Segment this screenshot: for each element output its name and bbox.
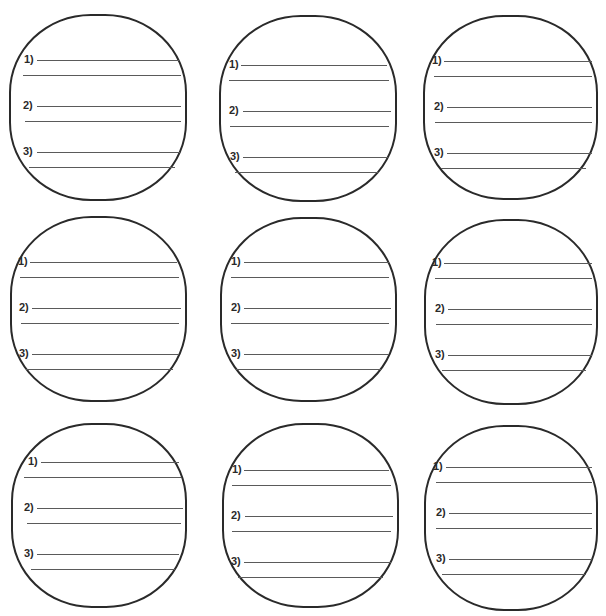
writing-line[interactable]: [447, 153, 592, 154]
writing-line[interactable]: [244, 562, 391, 563]
writing-line[interactable]: [37, 60, 179, 61]
writing-line[interactable]: [30, 262, 177, 263]
writing-line[interactable]: [435, 122, 592, 123]
item-number-3: 3): [23, 146, 33, 157]
writing-line[interactable]: [434, 76, 592, 77]
writing-line[interactable]: [24, 477, 181, 478]
item-number-1: 1): [433, 461, 443, 472]
writing-line[interactable]: [32, 308, 181, 309]
writing-line[interactable]: [444, 61, 592, 62]
item-number-1: 1): [229, 59, 239, 70]
writing-line[interactable]: [446, 467, 592, 468]
item-number-1: 1): [432, 55, 442, 66]
writing-line[interactable]: [243, 157, 389, 158]
item-number-2: 2): [434, 101, 444, 112]
writing-line[interactable]: [442, 370, 586, 371]
writing-line[interactable]: [243, 111, 391, 112]
answer-card-1: 1) 2) 3): [9, 14, 187, 201]
item-number-2: 2): [231, 302, 241, 313]
item-number-3: 3): [19, 348, 29, 359]
answer-card-9: 1) 2) 3): [424, 425, 598, 611]
item-number-2: 2): [436, 507, 446, 518]
item-number-2: 2): [229, 105, 239, 116]
item-number-1: 1): [18, 256, 28, 267]
writing-line[interactable]: [230, 126, 389, 127]
writing-line[interactable]: [27, 523, 181, 524]
writing-line[interactable]: [37, 554, 179, 555]
writing-line[interactable]: [229, 80, 389, 81]
writing-line[interactable]: [29, 167, 175, 168]
item-number-3: 3): [434, 147, 444, 158]
writing-line[interactable]: [238, 577, 383, 578]
writing-line[interactable]: [232, 485, 391, 486]
writing-line[interactable]: [245, 516, 393, 517]
writing-line[interactable]: [231, 323, 389, 324]
writing-line[interactable]: [232, 531, 391, 532]
item-number-1: 1): [24, 54, 34, 65]
writing-line[interactable]: [20, 277, 179, 278]
writing-line[interactable]: [436, 324, 592, 325]
item-number-2: 2): [19, 302, 29, 313]
item-number-3: 3): [231, 348, 241, 359]
writing-line[interactable]: [25, 121, 181, 122]
writing-line[interactable]: [448, 309, 592, 310]
item-number-1: 1): [28, 456, 38, 467]
item-number-3: 3): [436, 553, 446, 564]
writing-line[interactable]: [436, 528, 592, 529]
writing-line[interactable]: [441, 168, 586, 169]
writing-line[interactable]: [236, 369, 381, 370]
answer-card-6: 1) 2) 3): [424, 219, 598, 405]
writing-line[interactable]: [241, 65, 387, 66]
item-number-3: 3): [435, 349, 445, 360]
writing-line[interactable]: [37, 152, 181, 153]
item-number-1: 1): [432, 257, 442, 268]
writing-line[interactable]: [244, 470, 389, 471]
answer-card-3: 1) 2) 3): [423, 15, 598, 200]
writing-line[interactable]: [244, 262, 389, 263]
item-number-2: 2): [23, 100, 33, 111]
writing-line[interactable]: [435, 278, 592, 279]
writing-line[interactable]: [231, 277, 389, 278]
answer-card-2: 1) 2) 3): [219, 15, 397, 202]
answer-card-7: 1) 2) 3): [11, 423, 187, 608]
item-number-2: 2): [24, 502, 34, 513]
writing-line[interactable]: [37, 508, 183, 509]
writing-line[interactable]: [442, 574, 586, 575]
writing-line[interactable]: [235, 172, 379, 173]
answer-card-4: 1) 2) 3): [10, 216, 187, 402]
item-number-2: 2): [231, 510, 241, 521]
writing-line[interactable]: [244, 308, 391, 309]
item-number-1: 1): [232, 464, 242, 475]
answer-card-5: 1) 2) 3): [220, 217, 397, 402]
writing-line[interactable]: [26, 369, 173, 370]
writing-line[interactable]: [449, 559, 592, 560]
writing-line[interactable]: [447, 107, 592, 108]
writing-line[interactable]: [37, 106, 181, 107]
writing-line[interactable]: [436, 482, 592, 483]
writing-line[interactable]: [448, 355, 592, 356]
writing-line[interactable]: [244, 354, 389, 355]
answer-card-8: 1) 2) 3): [222, 423, 399, 608]
writing-line[interactable]: [449, 513, 592, 514]
item-number-2: 2): [435, 303, 445, 314]
writing-line[interactable]: [31, 569, 175, 570]
writing-line[interactable]: [32, 354, 179, 355]
writing-line[interactable]: [23, 75, 181, 76]
item-number-1: 1): [231, 256, 241, 267]
writing-line[interactable]: [21, 323, 179, 324]
writing-line[interactable]: [41, 462, 179, 463]
writing-line[interactable]: [444, 263, 592, 264]
item-number-3: 3): [231, 556, 241, 567]
item-number-3: 3): [24, 548, 34, 559]
item-number-3: 3): [230, 151, 240, 162]
